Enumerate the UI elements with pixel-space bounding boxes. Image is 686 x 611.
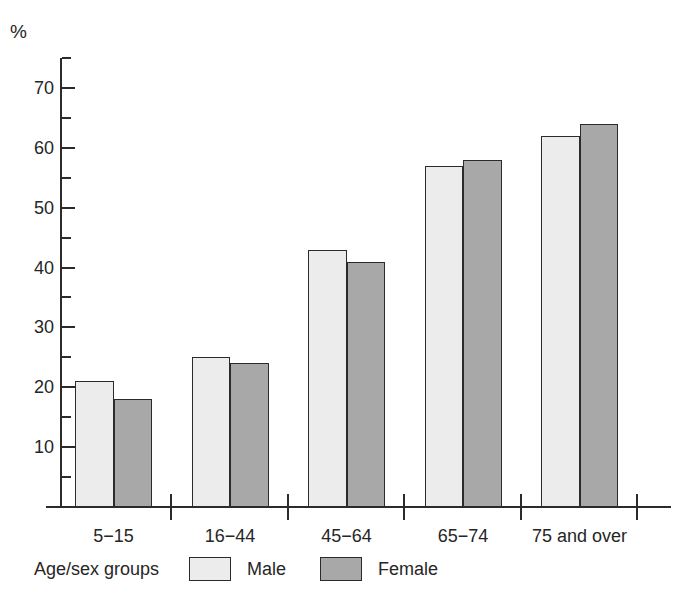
bar-chart-figure: % 70605040302010 5−1516−4445−6465−7475 a… [0,0,686,611]
bar-male-1 [192,357,231,507]
legend-swatch-female-icon [320,557,362,581]
bars-layer [0,0,686,507]
bar-female-2 [347,262,386,507]
bar-female-4 [580,124,619,507]
legend-swatch-male-icon [189,557,231,581]
bar-male-4 [541,136,580,507]
bar-male-0 [75,381,114,507]
x-tick [636,494,638,520]
bar-female-0 [114,399,153,507]
legend-label-female: Female [378,560,438,578]
chart-legend: Age/sex groups Male Female [34,556,472,582]
x-category-label: 75 and over [532,527,627,545]
x-category-label: 5−15 [93,527,134,545]
legend-item-male: Male [189,557,286,581]
legend-item-female: Female [320,557,438,581]
x-category-label: 65−74 [438,527,489,545]
x-tick [520,494,522,520]
legend-title: Age/sex groups [34,560,159,578]
x-category-label: 16−44 [205,527,256,545]
x-tick [403,494,405,520]
legend-label-male: Male [247,560,286,578]
x-tick [170,494,172,520]
x-tick [287,494,289,520]
bar-male-2 [308,250,347,507]
bar-male-3 [425,166,464,507]
plot-area: 70605040302010 5−1516−4445−6465−7475 and… [0,0,686,611]
x-category-label: 45−64 [321,527,372,545]
bar-female-1 [230,363,269,507]
bar-female-3 [463,160,502,507]
